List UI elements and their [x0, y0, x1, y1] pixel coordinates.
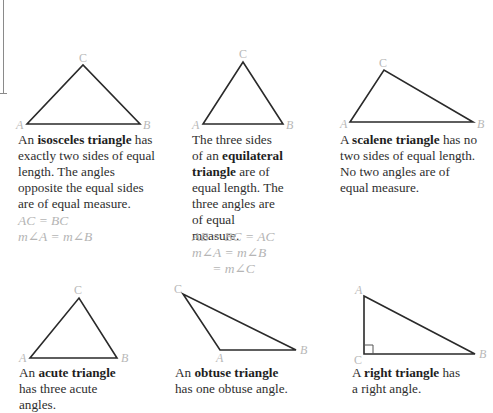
isosceles-equation-1: AC = BC	[18, 213, 68, 229]
isosceles-description: An isosceles triangle has exactly two si…	[18, 132, 158, 212]
vertex-label-b: B	[300, 343, 308, 357]
equilateral-triangle-figure: A B C	[191, 47, 294, 132]
vertex-label-c: C	[74, 283, 82, 297]
vertex-label-a: A	[215, 351, 224, 365]
vertex-label-c: C	[79, 51, 87, 65]
term-obtuse: obtuse triangle	[194, 365, 278, 380]
equilateral-equation-1: AB = BC = AC	[192, 229, 274, 245]
vertex-label-b: B	[286, 118, 294, 132]
equilateral-description: The three sides of an equilateral triang…	[192, 132, 284, 244]
term-scalene: scalene triangle	[352, 132, 440, 147]
scalene-description: A scalene triangle has no two sides of e…	[340, 132, 480, 196]
term-right: right triangle	[364, 365, 439, 380]
equilateral-equation-3: = m∠C	[192, 261, 255, 277]
vertex-label-c: C	[174, 282, 182, 296]
right-angle-marker	[364, 345, 373, 354]
vertex-label-a: A	[15, 118, 24, 132]
vertex-label-b: B	[477, 117, 485, 131]
vertex-label-a: A	[339, 117, 348, 131]
vertex-label-b: B	[121, 351, 129, 365]
obtuse-description: An obtuse triangle has one obtuse angle.	[175, 365, 290, 397]
acute-description: An acute triangle has three acute angles…	[19, 365, 134, 413]
vertex-label-a: A	[191, 118, 200, 132]
vertex-label-c: C	[239, 47, 247, 61]
term-acute: acute triangle	[38, 365, 115, 380]
isosceles-triangle-figure: A B C	[15, 51, 151, 132]
scalene-triangle-figure: A B C	[339, 56, 485, 131]
term-isosceles: isosceles triangle	[37, 132, 131, 147]
obtuse-triangle-figure: A B C	[174, 282, 308, 365]
vertex-label-a: A	[18, 351, 27, 365]
vertex-label-c: C	[379, 56, 387, 70]
vertex-label-b: B	[479, 347, 487, 361]
vertex-label-b: B	[143, 118, 151, 132]
right-description: A right triangle has a right angle.	[352, 365, 467, 397]
acute-triangle-figure: A B C	[18, 283, 129, 365]
equilateral-equation-2: m∠A = m∠B	[192, 245, 266, 261]
right-triangle-figure: A B C	[354, 283, 487, 367]
vertex-label-a: A	[354, 283, 363, 297]
isosceles-equation-2: m∠A = m∠B	[18, 229, 92, 245]
